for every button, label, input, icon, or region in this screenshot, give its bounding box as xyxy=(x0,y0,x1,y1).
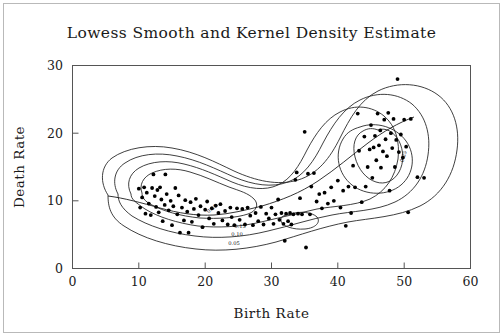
data-point xyxy=(309,185,313,189)
data-point xyxy=(284,212,288,216)
data-point xyxy=(264,212,268,216)
data-point xyxy=(223,209,227,213)
data-point xyxy=(197,213,201,217)
data-point xyxy=(167,208,171,212)
data-point xyxy=(283,239,287,243)
data-point xyxy=(368,148,372,152)
data-point xyxy=(369,123,373,127)
data-point xyxy=(270,206,274,210)
data-point xyxy=(205,200,209,204)
data-point xyxy=(156,188,160,192)
data-point xyxy=(293,178,297,182)
data-point xyxy=(288,211,292,215)
data-point xyxy=(214,204,218,208)
data-point xyxy=(290,223,294,227)
contour-level-0.10 xyxy=(115,94,429,237)
data-point xyxy=(366,165,370,169)
data-point xyxy=(373,134,377,138)
x-tick-label: 20 xyxy=(197,274,213,289)
data-point xyxy=(390,146,394,150)
data-point xyxy=(219,202,223,206)
data-point xyxy=(228,206,232,210)
data-point xyxy=(308,212,312,216)
data-point xyxy=(312,171,316,175)
data-point xyxy=(240,207,244,211)
data-point xyxy=(378,129,382,133)
data-point xyxy=(175,212,179,216)
data-point xyxy=(339,206,343,210)
data-point xyxy=(182,219,186,223)
data-point xyxy=(384,137,388,141)
plot-frame xyxy=(73,66,471,269)
data-point xyxy=(194,197,198,201)
data-point xyxy=(332,199,336,203)
data-point xyxy=(246,206,250,210)
data-point xyxy=(394,138,398,142)
data-point xyxy=(357,149,361,153)
data-point xyxy=(243,223,247,227)
data-point xyxy=(402,118,406,122)
y-tick-labels: 0 10 20 30 xyxy=(47,58,63,276)
data-point xyxy=(207,217,211,221)
data-point xyxy=(248,214,252,218)
data-point xyxy=(303,130,307,134)
data-point xyxy=(145,191,149,195)
data-point xyxy=(349,211,353,215)
data-point xyxy=(406,210,410,214)
data-point xyxy=(210,206,214,210)
data-point xyxy=(142,185,146,189)
data-point xyxy=(171,204,175,208)
data-point xyxy=(347,185,351,189)
data-point xyxy=(256,219,260,223)
x-tick-label: 50 xyxy=(396,274,412,289)
data-point xyxy=(344,224,348,228)
data-point xyxy=(157,210,161,214)
data-point xyxy=(329,185,333,189)
data-point xyxy=(259,205,263,209)
data-point xyxy=(362,135,366,139)
data-point xyxy=(278,218,282,222)
data-point xyxy=(140,196,144,200)
data-point xyxy=(267,217,271,221)
data-point xyxy=(304,246,308,250)
data-point xyxy=(404,145,408,149)
data-point xyxy=(291,212,295,216)
data-point xyxy=(226,223,230,227)
data-point xyxy=(295,171,299,175)
data-point xyxy=(272,222,276,226)
data-point xyxy=(180,206,184,210)
data-point xyxy=(323,191,327,195)
data-point xyxy=(381,150,385,154)
figure-canvas: Lowess Smooth and Kernel Density Estimat… xyxy=(0,0,503,336)
data-point xyxy=(300,212,304,216)
data-point xyxy=(221,219,225,223)
data-point xyxy=(153,194,157,198)
y-axis-title: Death Rate xyxy=(11,126,27,208)
data-point xyxy=(147,202,151,206)
data-point xyxy=(379,166,383,170)
data-point xyxy=(235,206,239,210)
data-point xyxy=(374,158,378,162)
data-point xyxy=(177,194,181,198)
data-point xyxy=(392,117,396,121)
chart-title: Lowess Smooth and Kernel Density Estimat… xyxy=(67,24,436,42)
data-point xyxy=(320,206,324,210)
data-point xyxy=(296,212,300,216)
data-point xyxy=(187,231,191,235)
data-point xyxy=(393,165,397,169)
data-point xyxy=(262,223,266,227)
data-point xyxy=(144,212,148,216)
data-point xyxy=(169,199,173,203)
y-tick-label: 20 xyxy=(47,126,63,141)
data-point xyxy=(183,198,187,202)
data-point xyxy=(317,192,321,196)
scatter-plot-figure: Lowess Smooth and Kernel Density Estimat… xyxy=(0,0,503,336)
contour-label-0.05: 0.05 xyxy=(228,240,240,246)
contour-level-0.05 xyxy=(102,85,457,251)
data-point xyxy=(353,185,357,189)
data-point xyxy=(137,187,141,191)
data-point xyxy=(170,223,174,227)
data-point xyxy=(199,204,203,208)
data-point xyxy=(238,218,242,222)
y-tick-label: 10 xyxy=(47,193,63,208)
